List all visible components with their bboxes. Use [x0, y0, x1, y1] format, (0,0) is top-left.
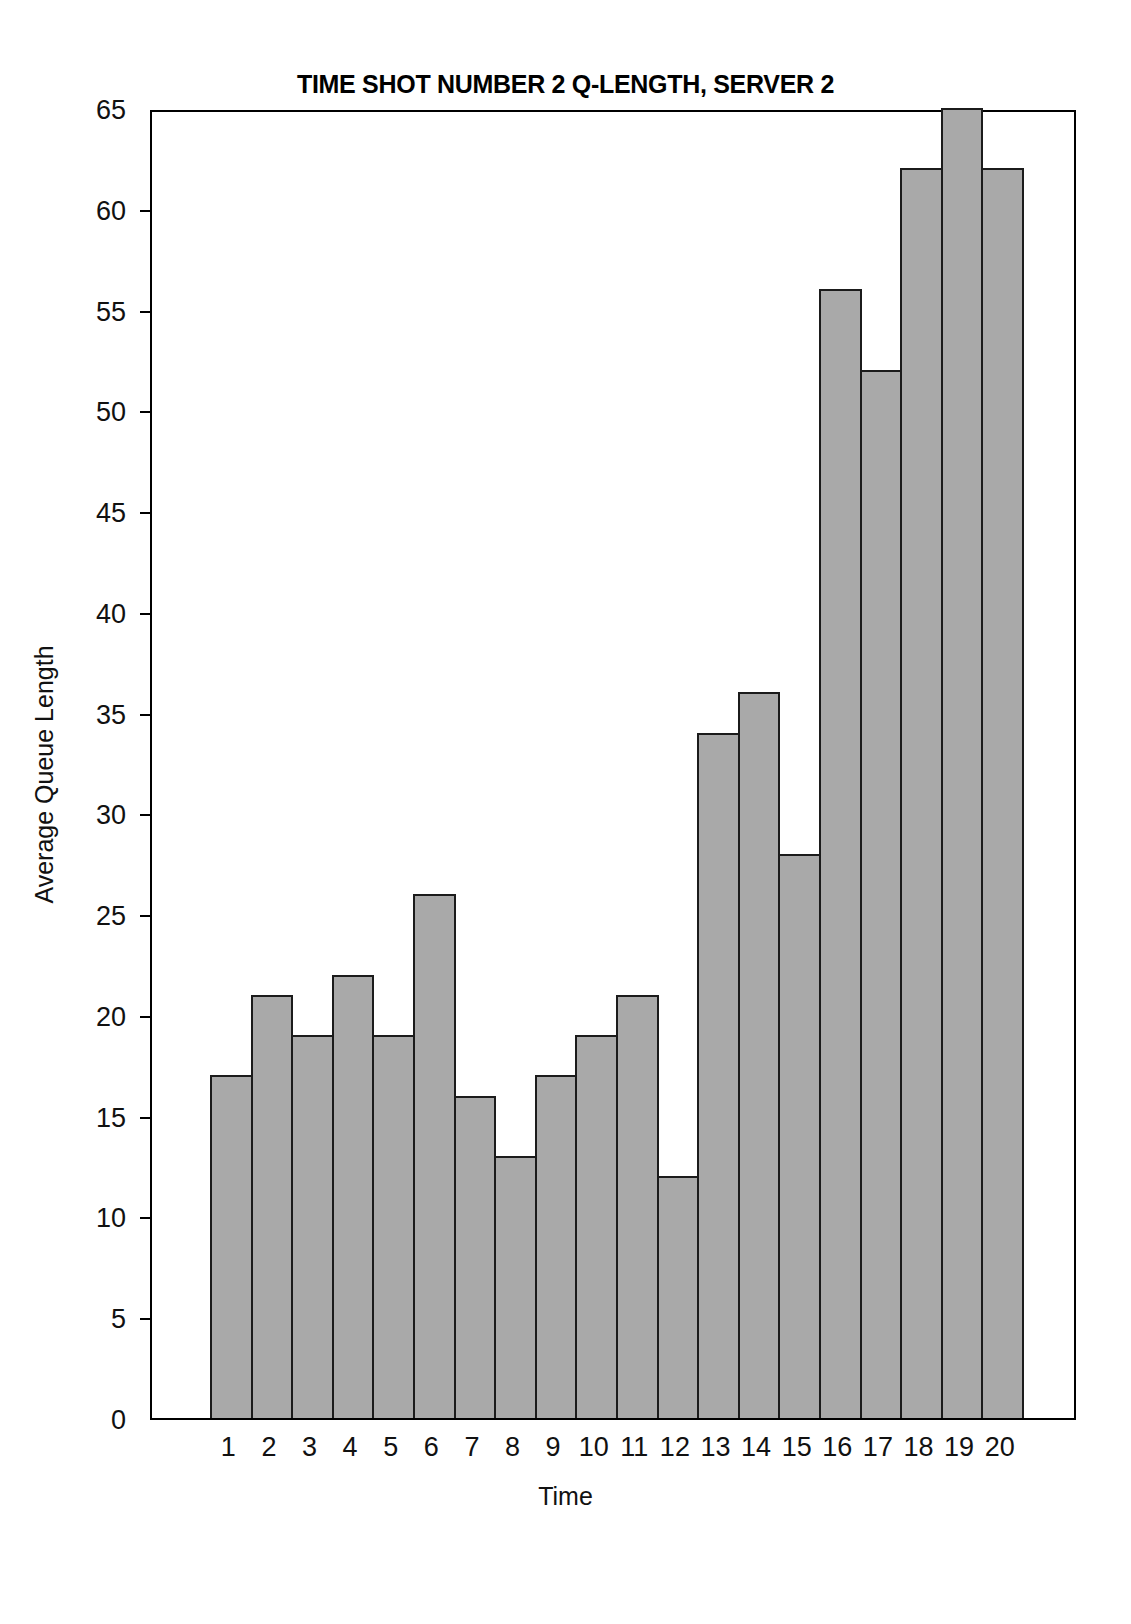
bar: [413, 894, 456, 1418]
bar: [372, 1035, 415, 1418]
bar: [819, 289, 862, 1418]
bar: [616, 995, 659, 1418]
y-axis-tick-label: 0: [66, 1405, 126, 1436]
chart-title: TIME SHOT NUMBER 2 Q-LENGTH, SERVER 2: [0, 70, 1131, 99]
bar: [657, 1176, 700, 1418]
bar: [738, 692, 781, 1418]
x-axis-title: Time: [0, 1482, 1131, 1511]
bar: [697, 733, 740, 1418]
y-axis-tick-label: 45: [66, 498, 126, 529]
bar: [251, 995, 294, 1418]
bar: [900, 168, 943, 1418]
y-axis-tick-label: 40: [66, 598, 126, 629]
bar: [778, 854, 821, 1418]
y-axis-tick-label: 25: [66, 901, 126, 932]
y-axis-tick-label: 60: [66, 195, 126, 226]
y-axis-tick-label: 50: [66, 397, 126, 428]
bar: [454, 1096, 497, 1418]
y-axis-tick-label: 35: [66, 699, 126, 730]
bar: [332, 975, 375, 1418]
plot-area: [150, 110, 1076, 1420]
y-axis-tick-label: 20: [66, 1001, 126, 1032]
bar: [941, 108, 984, 1418]
y-axis-tick-label: 65: [66, 95, 126, 126]
bar: [535, 1075, 578, 1418]
bar: [494, 1156, 537, 1418]
y-axis-tick-label: 15: [66, 1102, 126, 1133]
y-axis-tick-label: 5: [66, 1304, 126, 1335]
x-axis-tick-label: 20: [970, 1432, 1030, 1463]
bar: [291, 1035, 334, 1418]
bar: [210, 1075, 253, 1418]
bar: [860, 370, 903, 1418]
y-axis-tick-label: 10: [66, 1203, 126, 1234]
y-axis-tick-label: 30: [66, 800, 126, 831]
y-axis-title: Average Queue Length: [30, 625, 59, 925]
chart-figure: TIME SHOT NUMBER 2 Q-LENGTH, SERVER 2 Av…: [0, 0, 1131, 1624]
y-axis-tick-label: 55: [66, 296, 126, 327]
bar: [981, 168, 1024, 1418]
bar: [575, 1035, 618, 1418]
bars-layer: [152, 112, 1074, 1418]
